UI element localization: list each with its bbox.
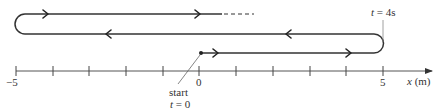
tick-label-0: 0 (196, 77, 202, 88)
tick-label-neg5: −5 (6, 77, 18, 88)
axis-title: x (m) (407, 76, 431, 87)
turn-time-label: t = 4s (371, 7, 396, 18)
tick-label-5: 5 (380, 77, 386, 88)
axis-unit: (m) (415, 75, 431, 87)
motion-diagram: −5 0 5 x (m) start t = 0 t = 4s (0, 0, 438, 110)
x-axis (16, 66, 432, 76)
start-time-label: t = 0 (170, 99, 190, 110)
start-label: start (169, 87, 188, 98)
motion-path (15, 14, 384, 53)
axis-var: x (407, 75, 412, 87)
start-point (199, 51, 203, 55)
